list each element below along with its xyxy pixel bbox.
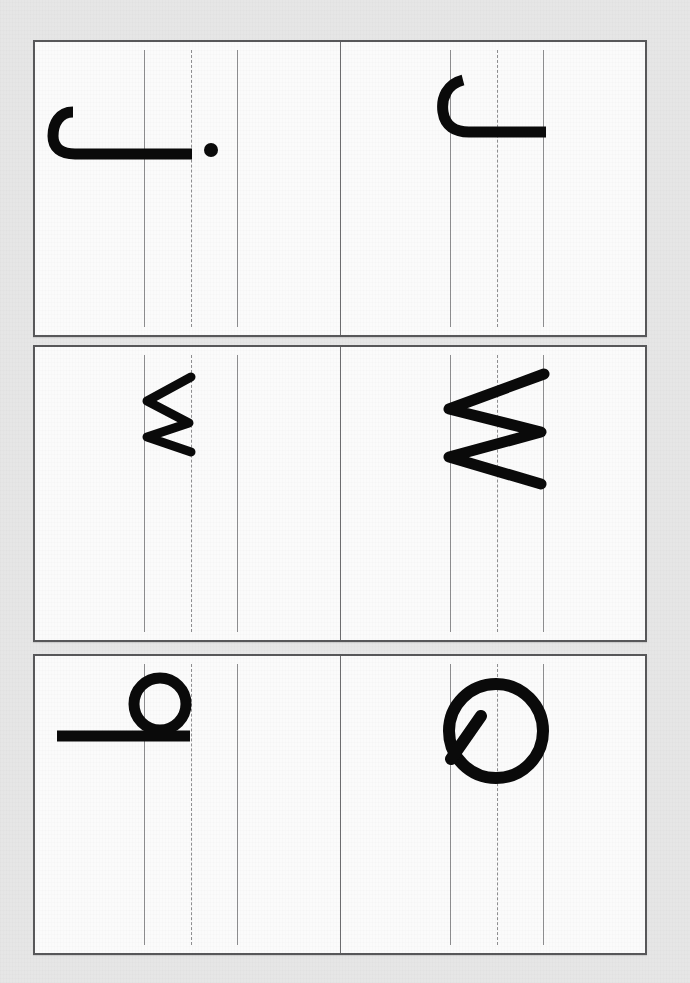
practice-cell-q-uppercase[interactable] bbox=[340, 656, 646, 953]
letter-q-uppercase bbox=[341, 656, 646, 953]
letter-j-uppercase bbox=[341, 42, 646, 335]
letter-j-lowercase bbox=[35, 42, 340, 335]
letter-q-lowercase bbox=[35, 656, 340, 953]
practice-cell-w-uppercase[interactable] bbox=[340, 347, 646, 640]
worksheet-page bbox=[0, 0, 690, 983]
letter-w-uppercase bbox=[341, 347, 646, 640]
letter-w-lowercase bbox=[35, 347, 340, 640]
practice-cell-j-lowercase[interactable] bbox=[35, 42, 340, 335]
practice-cell-w-lowercase[interactable] bbox=[35, 347, 340, 640]
practice-cell-j-uppercase[interactable] bbox=[340, 42, 646, 335]
practice-cell-q-lowercase[interactable] bbox=[35, 656, 340, 953]
practice-box-row-1 bbox=[33, 40, 647, 337]
practice-box-row-3 bbox=[33, 654, 647, 955]
practice-box-row-2 bbox=[33, 345, 647, 642]
